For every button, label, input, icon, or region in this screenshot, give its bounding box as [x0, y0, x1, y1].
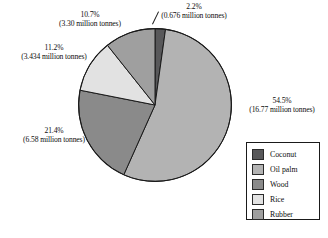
legend-swatch-coconut — [252, 149, 264, 160]
legend-swatch-wood — [252, 179, 264, 190]
legend-label-wood: Wood — [270, 179, 288, 190]
legend-item-rice[interactable]: Rice — [252, 192, 319, 206]
slice-label-coconut: 2.2% (0.676 million tonnes) — [146, 2, 242, 21]
slice-label-oil-palm: 54.5% (16.77 million tonnes) — [236, 96, 328, 115]
slice-label-coconut-percent: 2.2% — [146, 2, 242, 11]
legend-item-oil-palm[interactable]: Oil palm — [252, 162, 319, 176]
pie-chart-figure: 2.2% (0.676 million tonnes) 10.7% (3.30 … — [0, 0, 328, 238]
slice-label-oil-palm-amount: (16.77 million tonnes) — [236, 105, 328, 114]
legend-item-wood[interactable]: Wood — [252, 177, 319, 191]
pie-slice-group — [79, 29, 232, 182]
legend-swatch-rubber — [252, 209, 264, 220]
legend-item-rubber[interactable]: Rubber — [252, 207, 319, 221]
legend-swatch-oil-palm — [252, 164, 264, 175]
slice-label-oil-palm-percent: 54.5% — [236, 96, 328, 105]
legend-label-rubber: Rubber — [270, 209, 293, 220]
legend-item-coconut[interactable]: Coconut — [252, 147, 319, 161]
pie-chart-svg — [78, 28, 232, 183]
slice-label-coconut-amount: (0.676 million tonnes) — [146, 11, 242, 20]
legend: Coconut Oil palm Wood Rice Rubber — [246, 142, 320, 220]
legend-swatch-rice — [252, 194, 264, 205]
legend-label-oil-palm: Oil palm — [270, 164, 298, 175]
legend-label-coconut: Coconut — [270, 149, 296, 160]
slice-label-rubber-percent: 10.7% — [40, 10, 140, 19]
pie-chart — [78, 28, 232, 183]
legend-label-rice: Rice — [270, 194, 284, 205]
slice-label-rubber: 10.7% (3.30 million tonnes) — [40, 10, 140, 29]
